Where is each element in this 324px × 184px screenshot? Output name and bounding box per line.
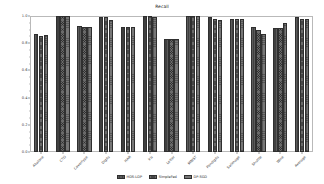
legend-swatch (149, 175, 157, 178)
bar (34, 34, 38, 152)
x-tick-label: Covertype (73, 155, 89, 171)
bar-group (226, 16, 248, 152)
bar (305, 19, 309, 152)
bar-group (248, 16, 270, 152)
bar (164, 39, 168, 152)
y-axis: 0.00.20.40.60.81.0 (0, 16, 30, 152)
bar (273, 28, 277, 152)
bar (60, 16, 64, 152)
x-tick-mark (171, 152, 172, 154)
y-tick-label: 0.8 (22, 41, 28, 45)
bar (261, 34, 265, 152)
chart-figure: Recall 0.00.20.40.60.81.0 AbaloneCTGCove… (0, 0, 324, 184)
bar (121, 27, 125, 152)
bar (82, 27, 86, 152)
bar-group (204, 16, 226, 152)
x-tick-mark (215, 152, 216, 154)
legend-swatch (184, 175, 192, 178)
x-tick-mark (62, 152, 63, 154)
x-tick-label: Abalone (32, 155, 45, 168)
bar (230, 19, 234, 152)
x-tick-label: MNIST (187, 155, 198, 166)
x-tick-mark (149, 152, 150, 154)
legend-item[interactable]: DP-SGD (184, 175, 207, 179)
legend-swatch (117, 175, 125, 178)
bar-group (182, 16, 204, 152)
x-tick-label: Wine (276, 155, 285, 164)
x-tick-mark (258, 152, 259, 154)
legend-item[interactable]: SimpleFed (149, 175, 177, 179)
bar (213, 19, 217, 152)
x-tick-label: Iris (147, 155, 154, 162)
bar (152, 17, 156, 152)
x-tick-label: Digits (101, 155, 111, 165)
bar (186, 16, 190, 152)
bar (256, 30, 260, 152)
x-tick-label: Pendigits (205, 155, 219, 169)
legend-label: SimpleFed (159, 175, 177, 179)
x-tick-mark (106, 152, 107, 154)
bar (196, 16, 200, 152)
bar (148, 16, 152, 152)
bar-series-container (30, 16, 313, 152)
x-tick-mark (280, 152, 281, 154)
y-tick-label: 0.6 (22, 68, 28, 72)
bar (278, 28, 282, 152)
bar (39, 36, 43, 152)
bar (126, 27, 130, 152)
bar (208, 17, 212, 152)
bar (218, 20, 222, 152)
legend-label: DP-SGD (193, 175, 207, 179)
bar (300, 19, 304, 152)
bar (240, 19, 244, 152)
x-tick-label: HAR (124, 155, 132, 163)
bar-group (291, 16, 313, 152)
bar (104, 17, 108, 152)
bar (131, 27, 135, 152)
bar (77, 26, 81, 152)
x-tick-label: Average (293, 155, 306, 168)
y-tick-label: 0.0 (22, 150, 28, 154)
legend-label: HDS-LDP (127, 175, 143, 179)
x-tick-mark (236, 152, 237, 154)
x-tick-label: Letter (166, 155, 176, 165)
bar-group (52, 16, 74, 152)
bar-group (95, 16, 117, 152)
bar-group (161, 16, 183, 152)
bar (65, 16, 69, 152)
bar (235, 19, 239, 152)
bar-group (269, 16, 291, 152)
x-axis: AbaloneCTGCovertypeDigitsHARIrisLetterMN… (30, 152, 313, 174)
x-tick-label: Satimage (227, 155, 242, 170)
chart-title: Recall (0, 4, 324, 9)
bar (191, 16, 195, 152)
bar (295, 17, 299, 152)
x-tick-mark (127, 152, 128, 154)
chart-legend: HDS-LDPSimpleFedDP-SGD (0, 175, 324, 179)
bar (109, 20, 113, 152)
y-tick-label: 0.2 (22, 123, 28, 127)
bar-group (117, 16, 139, 152)
bar-group (74, 16, 96, 152)
y-tick-label: 1.0 (22, 14, 28, 18)
bar (283, 23, 287, 152)
bar (99, 17, 103, 152)
bar (251, 27, 255, 152)
bar (143, 16, 147, 152)
bar-group (139, 16, 161, 152)
bar-group (30, 16, 52, 152)
x-tick-mark (84, 152, 85, 154)
x-tick-mark (302, 152, 303, 154)
bar (169, 39, 173, 152)
y-tick-label: 0.4 (22, 96, 28, 100)
x-tick-label: Shuttle (251, 155, 263, 167)
bar (56, 16, 60, 152)
legend-item[interactable]: HDS-LDP (117, 175, 142, 179)
x-tick-mark (193, 152, 194, 154)
bar (44, 35, 48, 152)
bar (174, 39, 178, 152)
x-tick-mark (40, 152, 41, 154)
x-tick-label: CTG (59, 155, 67, 163)
bar (87, 27, 91, 152)
